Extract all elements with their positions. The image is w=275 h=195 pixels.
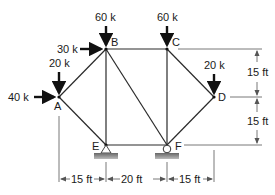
joint-label-b: B xyxy=(111,36,118,48)
joint-b xyxy=(104,47,107,50)
load-label-b-vertical: 60 k xyxy=(95,11,116,23)
load-label-c-vertical: 60 k xyxy=(157,11,178,23)
joint-label-f: F xyxy=(175,140,182,152)
joint-label-a: A xyxy=(54,100,62,112)
member-d-f xyxy=(167,97,214,145)
truss-diagram: A B C D E F 60 k 30 k 60 k 20 k 40 k 20 … xyxy=(0,0,275,195)
member-c-d xyxy=(167,49,214,97)
load-label-a-horizontal: 40 k xyxy=(8,91,29,103)
load-label-d-vertical: 20 k xyxy=(204,59,225,71)
joint-label-d: D xyxy=(218,91,226,103)
joint-d xyxy=(212,95,215,98)
truss-members xyxy=(59,49,214,145)
member-b-f xyxy=(106,49,167,145)
dimension-label-ef: 20 ft xyxy=(121,173,142,185)
joint-a xyxy=(57,95,60,98)
horizontal-dimensions: 15 ft 20 ft 15 ft xyxy=(59,116,214,185)
load-label-b-horizontal: 30 k xyxy=(57,43,78,55)
dimension-label-cd: 15 ft xyxy=(247,66,268,78)
joint-label-e: E xyxy=(92,140,99,152)
dimension-label-ae: 15 ft xyxy=(71,173,92,185)
joint-label-c: C xyxy=(172,36,180,48)
dimension-label-df: 15 ft xyxy=(247,115,268,127)
load-arrows: 60 k 30 k 60 k 20 k 40 k 20 k xyxy=(8,11,225,103)
joint-c xyxy=(165,47,168,50)
dimension-label-fd: 15 ft xyxy=(179,173,200,185)
member-a-e xyxy=(59,97,106,145)
load-label-a-vertical: 20 k xyxy=(49,57,70,69)
